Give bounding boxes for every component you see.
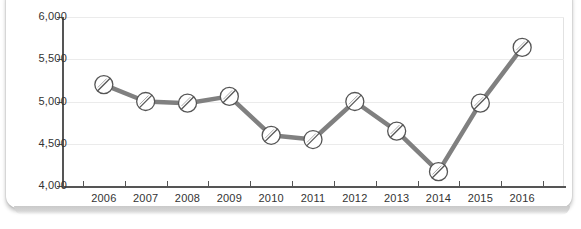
data-point-marker [137,93,155,111]
line-chart: 4,0004,5005,0005,5006,000 20062007200820… [0,0,581,229]
data-point-marker [388,122,406,140]
data-point-marker [304,131,322,149]
data-series [0,0,581,229]
data-point-marker [430,163,448,181]
data-point-marker [179,94,197,112]
data-point-markers [95,38,531,180]
data-point-marker [513,38,531,56]
data-point-marker [262,126,280,144]
series-line [104,47,522,171]
data-point-marker [346,93,364,111]
data-point-marker [471,94,489,112]
data-point-marker [95,76,113,94]
data-point-marker [220,87,238,105]
